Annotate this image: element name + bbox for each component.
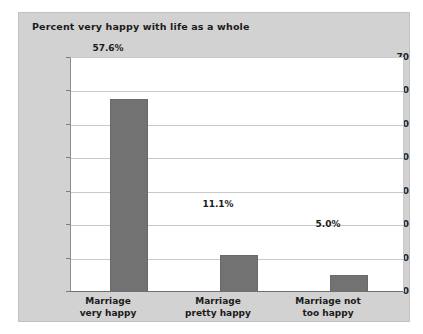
bar-value-label: 57.6% bbox=[69, 43, 147, 53]
category-label-line: Marriage not bbox=[287, 296, 369, 308]
gridline bbox=[71, 91, 403, 92]
chart-panel: Percent very happy with life as a whole … bbox=[18, 12, 410, 322]
category-label-marriage-pretty-happy: Marriage pretty happy bbox=[179, 296, 257, 319]
bar-marriage-pretty-happy[interactable] bbox=[220, 255, 258, 292]
category-label-line: too happy bbox=[287, 308, 369, 320]
bar-value-label: 11.1% bbox=[179, 199, 257, 209]
plot-area bbox=[70, 57, 404, 292]
chart-figure: Percent very happy with life as a whole … bbox=[0, 0, 423, 334]
category-label-line: pretty happy bbox=[179, 308, 257, 320]
bar-marriage-very-happy[interactable] bbox=[110, 99, 148, 292]
x-axis-line bbox=[70, 291, 403, 292]
category-label-marriage-not-too-happy: Marriage not too happy bbox=[287, 296, 369, 319]
category-label-line: Marriage bbox=[69, 296, 147, 308]
category-label-line: very happy bbox=[69, 308, 147, 320]
category-label-marriage-very-happy: Marriage very happy bbox=[69, 296, 147, 319]
chart-title: Percent very happy with life as a whole bbox=[32, 21, 250, 32]
bar-value-label: 5.0% bbox=[289, 219, 367, 229]
category-label-line: Marriage bbox=[179, 296, 257, 308]
bar-marriage-not-too-happy[interactable] bbox=[330, 275, 368, 292]
